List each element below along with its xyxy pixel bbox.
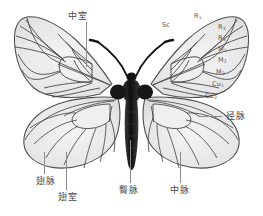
- label-vein-cu2-base: Cu: [205, 92, 214, 100]
- label-vein-r1-sub: 1: [199, 15, 202, 20]
- label-vein-m3-sub: 3: [222, 71, 225, 76]
- label-vein-m3-base: M: [216, 68, 222, 76]
- label-vein-r4: R4: [218, 35, 226, 42]
- label-vein-sc-base: Sc: [162, 21, 170, 29]
- label-vein-cu1: Cu1: [212, 81, 224, 88]
- label-discal-cell: 中室: [68, 12, 87, 21]
- label-radial-vein: 径脉: [226, 112, 245, 121]
- label-vein-m1-sub: 1: [224, 48, 227, 53]
- label-vein-r1: R1: [194, 13, 202, 20]
- label-vein-cu2: Cu2: [205, 93, 217, 100]
- leader-wing-vein: [44, 152, 45, 174]
- label-vein-m1-base: M: [218, 45, 224, 53]
- label-vein-m2-sub: 2: [224, 59, 227, 64]
- label-vein-r4-base: R: [218, 34, 223, 42]
- label-vein-m3: M3: [216, 69, 225, 76]
- leader-radial-vein: [198, 116, 222, 117]
- label-vein-r4-sub: 4: [223, 37, 226, 42]
- label-vein-m1: M1: [218, 46, 227, 53]
- leader-wing-cell: [66, 152, 67, 190]
- label-vein-m2-base: M: [218, 56, 224, 64]
- left-forewing: [14, 17, 112, 98]
- label-vein-r3-base: R: [218, 23, 223, 31]
- right-hindwing: [143, 97, 239, 168]
- label-vein-cu1-base: Cu: [212, 80, 221, 88]
- label-vein-r1-base: R: [194, 12, 199, 20]
- label-vein-cu2-sub: 2: [214, 95, 217, 100]
- leader-median-vein: [180, 152, 181, 183]
- butterfly-venation-figure: 中室 径脉 翅脉 翅室 臀脉 中脉 Sc R1 R3 R4 M1 M2 M3 C…: [0, 0, 263, 216]
- label-wing-vein: 翅脉: [36, 177, 55, 186]
- label-vein-r3: R3: [218, 24, 226, 31]
- label-vein-cu1-sub: 1: [221, 83, 224, 88]
- left-hindwing: [24, 97, 120, 168]
- label-vein-r3-sub: 3: [223, 26, 226, 31]
- label-median-vein: 中脉: [170, 186, 189, 195]
- label-vein-sc: Sc: [162, 22, 170, 29]
- label-vein-m2: M2: [218, 57, 227, 64]
- label-anal-vein: 臀脉: [119, 186, 138, 195]
- leader-anal-vein: [130, 140, 131, 183]
- leader-discal-cell: [86, 22, 87, 67]
- label-wing-cell: 翅室: [58, 193, 77, 202]
